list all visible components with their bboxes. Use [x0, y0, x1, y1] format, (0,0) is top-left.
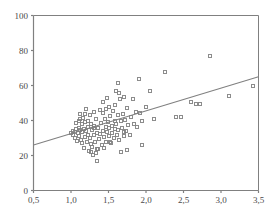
- y-axis-tick-label: 60: [19, 81, 29, 91]
- scatter-point: [208, 54, 211, 57]
- scatter-point: [190, 101, 193, 104]
- scatter-point: [251, 85, 254, 88]
- scatter-point: [78, 135, 81, 138]
- scatter-point: [94, 141, 97, 144]
- scatter-point: [102, 111, 105, 114]
- scatter-point: [105, 108, 108, 111]
- scatter-point: [80, 123, 83, 126]
- scatter-point: [127, 123, 130, 126]
- y-axis-tick-label: 100: [15, 11, 29, 21]
- scatter-point: [140, 144, 143, 147]
- scatter-point: [107, 135, 110, 138]
- scatter-point: [148, 89, 151, 92]
- scatter-series: [70, 54, 255, 162]
- x-axis-tick-label: 0,5: [28, 195, 40, 205]
- scatter-point: [97, 148, 100, 151]
- scatter-point: [112, 109, 115, 112]
- scatter-point: [96, 159, 99, 162]
- scatter-point: [97, 126, 100, 129]
- scatter-point: [103, 146, 106, 149]
- scatter-point: [199, 102, 202, 105]
- plot-canvas: 0204060801000,51,01,52,02,53,03,5: [0, 0, 278, 216]
- scatter-point: [115, 123, 118, 126]
- scatter-point: [85, 140, 88, 143]
- scatter-point: [116, 81, 119, 84]
- scatter-point: [119, 120, 122, 123]
- scatter-point: [82, 146, 85, 149]
- scatter-point: [83, 136, 86, 139]
- scatter-point: [81, 142, 84, 145]
- scatter-point: [113, 103, 116, 106]
- scatter-point: [120, 151, 123, 154]
- x-axis-tick-label: 2,5: [178, 195, 190, 205]
- scatter-point: [137, 78, 140, 81]
- scatter-point: [134, 110, 137, 113]
- scatter-point: [163, 71, 166, 74]
- scatter-point: [94, 117, 97, 120]
- x-axis-tick-label: 3,0: [215, 195, 227, 205]
- scatter-point: [85, 108, 88, 111]
- scatter-point: [118, 138, 121, 141]
- scatter-point: [116, 114, 119, 117]
- scatter-point: [101, 101, 104, 104]
- scatter-point: [105, 140, 108, 143]
- scatter-point: [97, 137, 100, 140]
- scatter-point: [195, 102, 198, 105]
- scatter-point: [145, 106, 148, 109]
- scatter-point: [227, 95, 230, 98]
- scatter-point: [180, 116, 183, 119]
- scatter-point: [79, 138, 82, 141]
- scatter-point: [141, 119, 144, 122]
- scatter-point: [103, 136, 106, 139]
- scatter-point: [98, 109, 101, 112]
- scatter-point: [128, 134, 131, 137]
- scatter-point: [94, 151, 97, 154]
- y-axis-tick-label: 20: [19, 151, 29, 161]
- scatter-point: [118, 97, 121, 100]
- scatter-point: [121, 126, 124, 129]
- scatter-point: [83, 113, 86, 116]
- scatter-point: [103, 117, 106, 120]
- x-axis-tick-label: 2,0: [140, 195, 152, 205]
- scatter-point: [88, 114, 91, 117]
- y-axis-tick-label: 80: [19, 46, 29, 56]
- scatter-point: [91, 145, 94, 148]
- scatter-point: [125, 149, 128, 152]
- x-axis-tick-label: 1,5: [103, 195, 115, 205]
- scatter-point: [136, 125, 139, 128]
- scatter-point: [88, 137, 91, 140]
- scatter-point: [122, 130, 125, 133]
- scatter-point: [118, 92, 121, 95]
- scatter-point: [95, 131, 98, 134]
- scatter-point: [110, 124, 113, 127]
- scatter-point: [131, 97, 134, 100]
- scatter-point: [122, 135, 125, 138]
- scatter-point: [109, 115, 112, 118]
- scatter-point: [126, 107, 129, 110]
- scatter-point: [117, 129, 120, 132]
- scatter-point: [79, 112, 82, 115]
- scatter-point: [106, 96, 109, 99]
- scatter-point: [123, 95, 126, 98]
- y-axis-tick-label: 40: [19, 116, 29, 126]
- scatter-point: [111, 131, 114, 134]
- scatter-point: [175, 116, 178, 119]
- scatter-plot-figure: 0204060801000,51,01,52,02,53,03,5: [0, 0, 278, 216]
- x-axis-tick-label: 1,0: [65, 195, 77, 205]
- scatter-point: [101, 130, 104, 133]
- scatter-point: [92, 110, 95, 113]
- scatter-point: [121, 112, 124, 115]
- scatter-point: [106, 130, 109, 133]
- scatter-point: [124, 118, 127, 121]
- scatter-point: [115, 134, 118, 137]
- x-axis-tick-label: 3,5: [253, 195, 265, 205]
- trend-line: [34, 77, 259, 145]
- scatter-point: [152, 117, 155, 120]
- scatter-point: [109, 141, 112, 144]
- scatter-point: [86, 120, 89, 123]
- scatter-point: [76, 139, 79, 142]
- scatter-point: [104, 125, 107, 128]
- scatter-point: [87, 133, 90, 136]
